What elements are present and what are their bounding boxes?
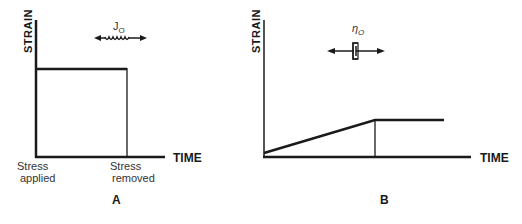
diagram: STRAIN TIME JO Stressapplied Stressremov…: [0, 0, 522, 224]
dashpot-icon: [327, 43, 385, 59]
stress-removed-line1: Stress: [110, 160, 155, 172]
panel-a-caption: A: [112, 194, 121, 206]
stress-applied-line2: applied: [20, 172, 55, 184]
panel-b-element-label: ηO: [352, 22, 364, 39]
panel-b-strain-curve: [264, 120, 444, 153]
panel-b-y-axis-label: STRAIN: [250, 9, 262, 53]
panel-a-element-label: JO: [113, 20, 125, 37]
panel-a-x-axis-label: TIME: [173, 152, 202, 164]
stress-applied-label: Stressapplied: [17, 160, 55, 184]
panel-b-graphics: [263, 20, 471, 158]
dashpot-subscript: O: [358, 28, 364, 37]
stress-removed-label: Stressremoved: [110, 160, 155, 184]
spring-subscript: O: [119, 26, 125, 35]
stress-removed-line2: removed: [112, 172, 155, 184]
panel-b-x-axis-label: TIME: [480, 152, 509, 164]
panel-b-caption: B: [380, 194, 389, 206]
panel-a-graphics: [35, 20, 165, 158]
stress-applied-line1: Stress: [17, 160, 55, 172]
panel-a-y-axis-label: STRAIN: [22, 9, 34, 53]
